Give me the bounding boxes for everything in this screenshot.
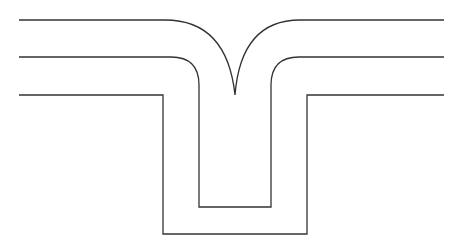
- middle-line: [19, 57, 444, 207]
- bottom-line: [19, 95, 444, 234]
- diagram-canvas: [0, 0, 462, 248]
- converging-lines-diagram: [0, 0, 462, 248]
